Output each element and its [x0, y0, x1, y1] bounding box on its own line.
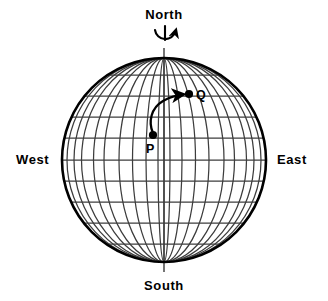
globe-illustration [0, 0, 328, 301]
label-east: East [277, 153, 307, 166]
point-q-marker [185, 90, 193, 98]
point-p-marker [149, 131, 157, 139]
label-point-q: Q [196, 89, 206, 102]
rotation-arrow-icon [155, 26, 176, 40]
label-north: North [0, 8, 328, 21]
label-south: South [0, 279, 328, 292]
label-point-p: P [146, 143, 154, 156]
label-west: West [16, 153, 49, 166]
globe-diagram-figure: North South West East P Q [0, 0, 328, 301]
